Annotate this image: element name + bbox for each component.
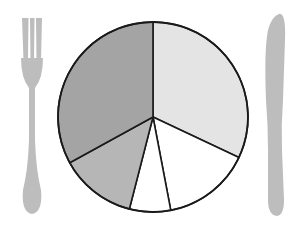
plate-pie-illustration [0, 0, 303, 233]
pie-chart [58, 22, 248, 212]
knife-icon [265, 14, 285, 216]
fork-icon [21, 18, 43, 214]
